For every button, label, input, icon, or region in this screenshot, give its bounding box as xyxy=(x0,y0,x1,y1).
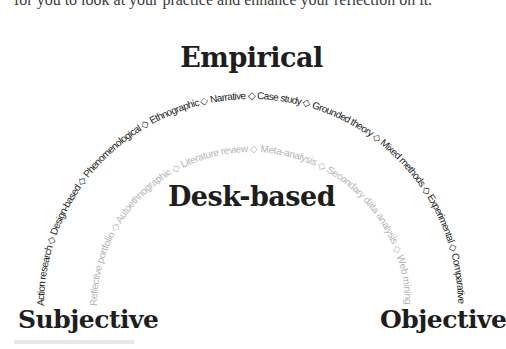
inner-arc-methods: Reflective portfolio ◇ Autoethnographic … xyxy=(88,143,414,306)
inner-arc-text: Reflective portfolio ◇ Autoethnographic … xyxy=(88,143,414,306)
desk-based-heading: Desk-based xyxy=(0,181,503,212)
objective-label: Objective xyxy=(380,305,506,334)
next-line-fragment xyxy=(14,340,134,344)
subjective-label: Subjective xyxy=(18,305,158,334)
